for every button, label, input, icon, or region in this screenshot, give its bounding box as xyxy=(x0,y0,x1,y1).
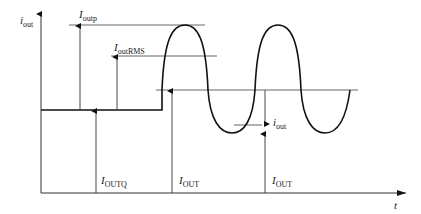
quiescent-level xyxy=(41,90,162,110)
peak-label: Ioutp xyxy=(79,9,97,20)
quiescent-label: IOUTQ xyxy=(101,175,127,186)
dc-label: IOUT xyxy=(179,175,199,186)
dc-label-2: IOUT xyxy=(272,175,292,186)
y-axis-label: iout xyxy=(20,15,33,26)
ac-label: iout xyxy=(273,117,286,128)
rms-label: IoutRMS xyxy=(114,42,145,53)
waveform-diagram xyxy=(0,0,421,214)
sine-waveform xyxy=(162,25,350,133)
x-axis-label: t xyxy=(394,200,397,211)
